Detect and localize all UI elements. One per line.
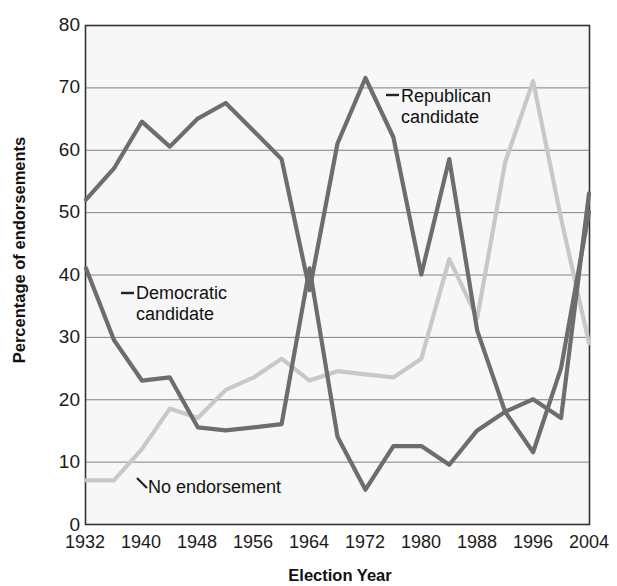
annotation-democratic-line2: candidate (136, 304, 227, 325)
annotation-democratic-line1: Democratic (136, 283, 227, 304)
chart-figure: Percentage of endorsements 80 70 60 50 4… (0, 0, 617, 586)
y-tick-10: 10 (34, 452, 80, 471)
annotation-republican-line2: candidate (401, 107, 491, 128)
y-tick-50: 50 (34, 202, 80, 221)
annotation-republican: Republican candidate (401, 86, 491, 128)
x-tick-2004: 2004 (554, 532, 617, 553)
y-axis-ticks: 80 70 60 50 40 30 20 10 0 (30, 0, 80, 586)
annotation-republican-line1: Republican (401, 86, 491, 107)
y-axis-title: Percentage of endorsements (6, 78, 32, 422)
y-tick-20: 20 (34, 390, 80, 409)
y-tick-40: 40 (34, 265, 80, 284)
y-axis-title-text: Percentage of endorsements (10, 137, 29, 364)
plot-area (0, 0, 617, 586)
y-tick-60: 60 (34, 140, 80, 159)
annotation-democratic: Democratic candidate (136, 283, 227, 325)
annotation-no-endorsement: No endorsement (148, 477, 281, 498)
y-tick-80: 80 (34, 15, 80, 34)
y-tick-70: 70 (34, 77, 80, 96)
x-axis-title: Election Year (85, 566, 595, 586)
y-tick-30: 30 (34, 327, 80, 346)
